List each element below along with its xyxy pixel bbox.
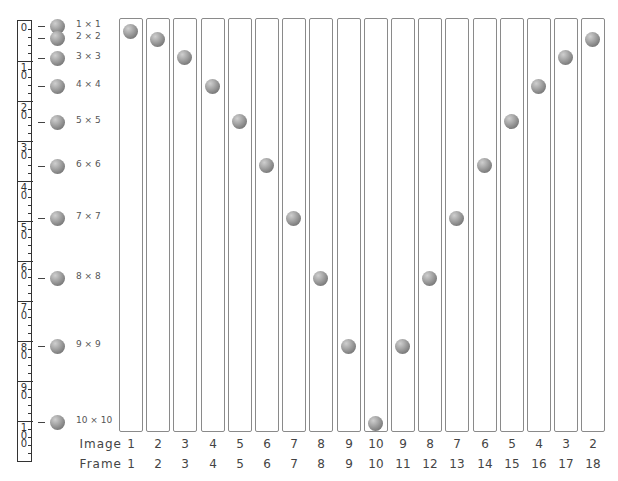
legend-dash	[38, 122, 45, 123]
ruler-label: 60	[20, 264, 28, 280]
ball-icon	[449, 211, 464, 226]
ruler-label: 90	[20, 384, 28, 400]
frame-number: 1	[119, 457, 143, 471]
ruler-tick	[28, 445, 31, 446]
ruler-tick	[28, 165, 31, 166]
ruler-tick	[28, 437, 31, 438]
legend-label: 5 × 5	[76, 115, 101, 125]
ruler-tick	[28, 317, 31, 318]
frame-number: 15	[500, 457, 524, 471]
image-number: 9	[337, 437, 361, 451]
image-number: 7	[282, 437, 306, 451]
frame-number: 11	[391, 457, 415, 471]
ruler-tick	[28, 77, 31, 78]
frame-column	[337, 18, 361, 432]
legend-dash	[38, 58, 45, 59]
image-number: 9	[391, 437, 415, 451]
frame-column	[146, 18, 170, 432]
frame-number: 17	[554, 457, 578, 471]
ruler-label: 10	[20, 64, 28, 80]
legend-label: 2 × 2	[76, 31, 101, 41]
frame-column	[119, 18, 143, 432]
frame-number: 8	[309, 457, 333, 471]
image-number: 10	[364, 437, 388, 451]
ball-icon	[286, 211, 301, 226]
frame-number: 2	[146, 457, 170, 471]
frame-column	[418, 18, 442, 432]
legend-dash	[38, 38, 45, 39]
image-number: 5	[228, 437, 252, 451]
ball-icon	[341, 339, 356, 354]
frame-number: 9	[337, 457, 361, 471]
ruler-tick	[28, 149, 31, 150]
vertical-ruler: 0102030405060708090100	[17, 20, 32, 462]
ruler-tick	[28, 429, 31, 430]
frame-number: 10	[364, 457, 388, 471]
frame-column	[364, 18, 388, 432]
image-number: 3	[554, 437, 578, 451]
frame-row-label: Frame	[80, 457, 122, 471]
image-number: 4	[527, 437, 551, 451]
ruler-label: 0	[20, 24, 28, 32]
legend-ball-icon	[50, 31, 65, 46]
image-number: 6	[255, 437, 279, 451]
ruler-tick	[28, 69, 31, 70]
ruler-label: 30	[20, 144, 28, 160]
ruler-label: 40	[20, 184, 28, 200]
frame-column	[391, 18, 415, 432]
ruler-tick	[28, 197, 31, 198]
ruler-tick	[28, 53, 31, 54]
frame-column	[554, 18, 578, 432]
frame-number: 18	[581, 457, 605, 471]
legend-ball-icon	[50, 211, 65, 226]
frame-column	[228, 18, 252, 432]
ruler-tick	[28, 29, 31, 30]
ruler-tick	[28, 237, 31, 238]
legend-ball-icon	[50, 51, 65, 66]
legend-dash	[38, 26, 45, 27]
image-number: 5	[500, 437, 524, 451]
ruler-tick	[28, 117, 31, 118]
ball-icon	[177, 50, 192, 65]
ruler-tick	[28, 413, 31, 414]
frame-column	[173, 18, 197, 432]
ruler-tick	[28, 389, 31, 390]
ruler-tick	[28, 349, 31, 350]
frame-column	[473, 18, 497, 432]
legend-dash	[38, 86, 45, 87]
ruler-tick	[28, 157, 31, 158]
ruler-tick	[28, 397, 31, 398]
ball-icon	[422, 271, 437, 286]
frame-column	[255, 18, 279, 432]
ruler-tick	[28, 173, 31, 174]
legend-ball-icon	[50, 159, 65, 174]
legend-ball-icon	[50, 271, 65, 286]
legend-dash	[38, 422, 45, 423]
legend-ball-icon	[50, 415, 65, 430]
ruler-tick	[28, 109, 31, 110]
ruler-tick	[28, 125, 31, 126]
frame-number: 12	[418, 457, 442, 471]
ball-icon	[368, 416, 383, 431]
legend-dash	[38, 278, 45, 279]
ruler-tick	[28, 325, 31, 326]
frame-number: 5	[228, 457, 252, 471]
ruler-tick	[28, 205, 31, 206]
frame-number: 16	[527, 457, 551, 471]
ruler-tick	[28, 93, 31, 94]
ruler-label: 100	[20, 424, 28, 448]
image-number: 3	[173, 437, 197, 451]
ball-icon	[232, 114, 247, 129]
ruler-tick	[28, 189, 31, 190]
legend-ball-icon	[50, 115, 65, 130]
ruler-tick	[28, 293, 31, 294]
frame-number: 7	[282, 457, 306, 471]
ruler-tick	[28, 45, 31, 46]
ruler-tick	[28, 453, 31, 454]
legend-label: 1 × 1	[76, 19, 101, 29]
ruler-tick	[28, 253, 31, 254]
ruler-label: 70	[20, 304, 28, 320]
image-number: 4	[201, 437, 225, 451]
image-number: 6	[473, 437, 497, 451]
frame-number: 14	[473, 457, 497, 471]
